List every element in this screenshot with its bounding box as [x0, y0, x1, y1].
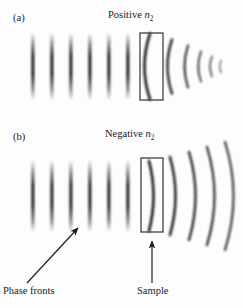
panel-a-letter: (a): [13, 12, 25, 23]
panel-a-wavefronts: [31, 33, 221, 100]
panel-b-title-subscript: 2: [151, 134, 155, 142]
panel-a-curved-fronts: [145, 34, 222, 100]
panel-a-title: Positive n2: [108, 9, 153, 23]
optical-self-focusing-figure: (a) Positive n2 (b) Negative n2 Phase fr…: [0, 0, 243, 308]
panel-a-straight-fronts: [31, 33, 129, 100]
panel-b-letter: (b): [13, 131, 25, 142]
panel-b-wavefronts: [31, 142, 233, 250]
phase-fronts-arrow: [27, 228, 78, 283]
panel-b-title-text: Negative: [105, 128, 146, 139]
figure-canvas: [0, 0, 243, 308]
phase-fronts-label: Phase fronts: [3, 285, 55, 296]
sample-label: Sample: [137, 285, 169, 296]
panel-a-title-subscript: 2: [150, 15, 154, 23]
panel-b-title: Negative n2: [105, 128, 154, 142]
panel-b-straight-fronts: [31, 160, 129, 232]
panel-a-title-text: Positive: [108, 9, 144, 20]
